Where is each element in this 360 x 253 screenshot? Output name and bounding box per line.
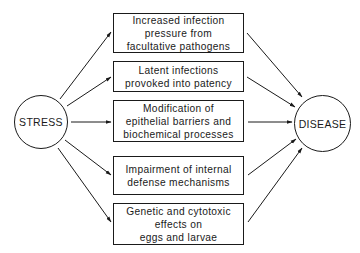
factor-label: Genetic and cytotoxic effects on eggs an… [126,205,231,244]
arrow-factor-2-to-disease [247,77,295,107]
arrow-stress-to-factor-4 [65,140,111,175]
arrow-factor-5-to-disease [248,148,302,222]
stress-label: STRESS [19,116,63,128]
factor-box-epithelial-barriers: Modification of epithelial barriers and … [113,100,244,142]
factor-label: Impairment of internal defense mechanism… [125,163,231,189]
disease-label: DISEASE [299,118,347,130]
factor-box-latent-infections: Latent infections provoked into patency [113,61,244,92]
arrow-stress-to-factor-1 [60,32,111,99]
factor-box-infection-pressure: Increased infection pressure from facult… [113,13,244,53]
arrow-factor-4-to-disease [248,139,296,175]
factor-label: Latent infections provoked into patency [125,64,232,90]
factor-label: Increased infection pressure from facult… [127,14,231,53]
arrow-factor-1-to-disease [247,33,302,97]
factor-label: Modification of epithelial barriers and … [123,102,233,141]
disease-node: DISEASE [294,95,351,152]
stress-node: STRESS [14,95,68,149]
arrow-stress-to-factor-5 [58,148,111,222]
factor-box-internal-defense: Impairment of internal defense mechanism… [113,156,244,195]
factor-box-genetic-cytotoxic: Genetic and cytotoxic effects on eggs an… [113,203,244,245]
